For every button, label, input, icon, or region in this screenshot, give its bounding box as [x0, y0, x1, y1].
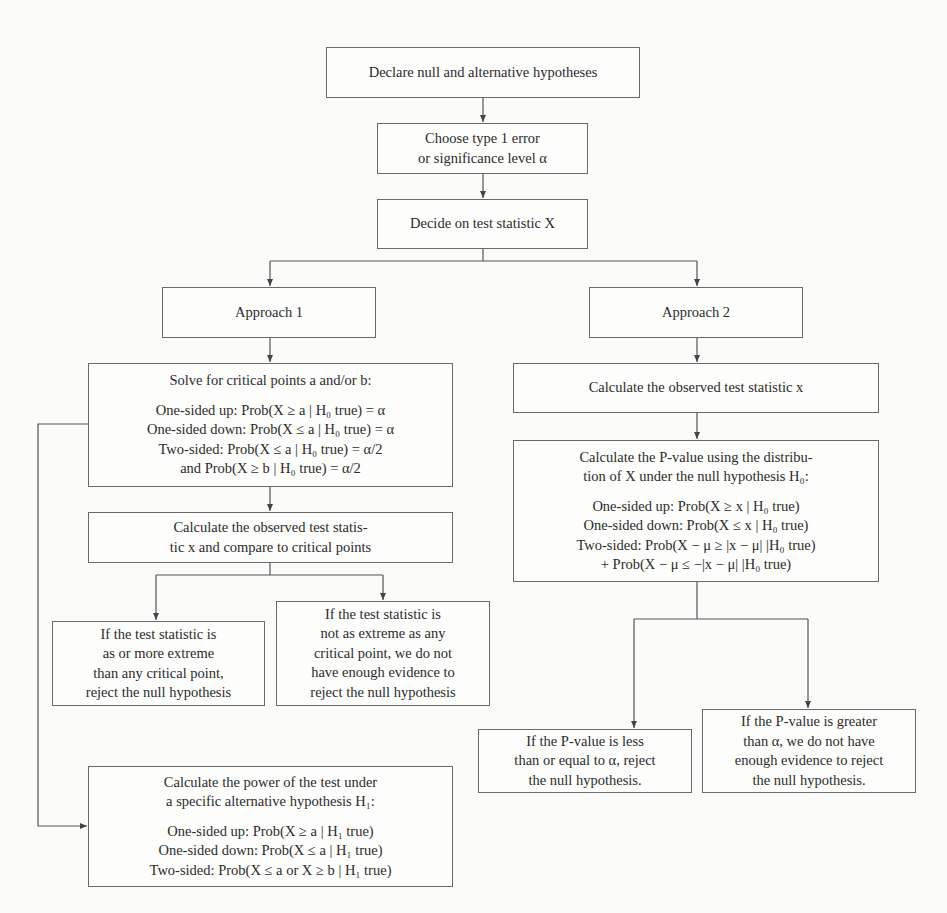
- node-heading: Calculate the P-value using the distribu…: [579, 448, 812, 468]
- node-decide-test-statistic: Decide on test statistic X: [377, 199, 588, 249]
- node-approach-1: Approach 1: [162, 287, 376, 338]
- node-calc-p-value: Calculate the P-value using the distribu…: [513, 440, 879, 582]
- node-text: tic x and compare to critical points: [170, 538, 371, 558]
- node-approach-2: Approach 2: [589, 287, 803, 338]
- node-text: Choose type 1 error: [425, 129, 540, 149]
- node-text: One-sided down: Prob(X ≤ x | H₀ true): [584, 516, 809, 536]
- node-text: Two-sided: Prob(X − μ ≥ |x − μ| |H₀ true…: [576, 536, 815, 556]
- node-text: Two-sided: Prob(X ≤ a | H₀ true) = α/2: [159, 440, 383, 460]
- node-text: than or equal to α, reject: [514, 751, 655, 771]
- node-text: If the P-value is less: [526, 732, 644, 752]
- node-not-reject-approach2: If the P-value is greater than α, we do …: [702, 709, 916, 793]
- node-text: + Prob(X − μ ≤ −|x − μ| |H₀ true): [601, 555, 791, 575]
- node-text: than any critical point,: [93, 664, 223, 684]
- node-text: One-sided down: Prob(X ≤ a | H₁ true): [158, 841, 382, 861]
- node-declare-hypotheses: Declare null and alternative hypotheses: [326, 47, 640, 98]
- node-text: or significance level α: [418, 149, 547, 169]
- node-text: than α, we do not have: [743, 732, 875, 752]
- node-text: Decide on test statistic X: [410, 214, 555, 234]
- node-not-reject-approach1: If the test statistic is not as extreme …: [276, 601, 490, 706]
- node-text: One-sided down: Prob(X ≤ a | H₀ true) = …: [147, 420, 394, 440]
- node-text: One-sided up: Prob(X ≥ a | H₀ true) = α: [156, 401, 385, 421]
- node-text: One-sided up: Prob(X ≥ a | H₁ true): [167, 822, 373, 842]
- node-heading: tion of X under the null hypothesis H₀:: [583, 467, 808, 487]
- node-choose-significance: Choose type 1 error or significance leve…: [377, 123, 588, 174]
- node-text: Declare null and alternative hypotheses: [369, 63, 598, 83]
- node-text: Two-sided: Prob(X ≤ a or X ≥ b | H₁ true…: [150, 861, 392, 881]
- node-observed-statistic: Calculate the observed test statistic x: [513, 363, 879, 413]
- node-text: If the P-value is greater: [741, 712, 877, 732]
- node-heading: a specific alternative hypothesis H₁:: [166, 792, 375, 812]
- node-text: If the test statistic is: [325, 605, 441, 625]
- node-text: critical point, we do not: [314, 644, 452, 664]
- node-reject-null-approach1: If the test statistic is as or more extr…: [52, 621, 265, 706]
- node-power-of-test: Calculate the power of the test under a …: [88, 766, 453, 887]
- node-text: Calculate the observed test statistic x: [589, 378, 804, 398]
- node-text: Approach 1: [235, 303, 303, 323]
- node-text: If the test statistic is: [101, 625, 217, 645]
- node-text: Approach 2: [662, 303, 730, 323]
- node-text: enough evidence to reject: [735, 751, 884, 771]
- node-text: reject the null hypothesis: [310, 683, 455, 703]
- node-text: One-sided up: Prob(X ≥ x | H₀ true): [592, 497, 799, 517]
- node-calc-compare: Calculate the observed test statis- tic …: [88, 512, 453, 563]
- node-heading: Calculate the power of the test under: [164, 773, 377, 793]
- node-reject-null-approach2: If the P-value is less than or equal to …: [478, 729, 692, 793]
- node-text: the null hypothesis.: [528, 771, 641, 791]
- node-text: and Prob(X ≥ b | H₀ true) = α/2: [180, 459, 361, 479]
- node-text: the null hypothesis.: [752, 771, 865, 791]
- node-text: Calculate the observed test statis-: [173, 518, 367, 538]
- node-text: reject the null hypothesis: [86, 683, 231, 703]
- node-text: as or more extreme: [103, 644, 215, 664]
- node-text: have enough evidence to: [311, 663, 455, 683]
- node-text: not as extreme as any: [321, 624, 446, 644]
- node-solve-critical-points: Solve for critical points a and/or b: On…: [88, 363, 453, 487]
- node-heading: Solve for critical points a and/or b:: [169, 371, 371, 391]
